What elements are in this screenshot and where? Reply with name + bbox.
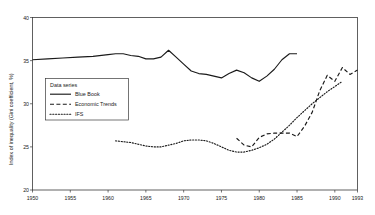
legend-label: IFS	[75, 111, 84, 117]
y-tick-label: 40	[23, 15, 29, 21]
x-tick-label: 1965	[140, 195, 152, 201]
series-line-ifs	[116, 81, 343, 152]
x-tick-label: 1960	[102, 195, 114, 201]
x-tick-label: 1975	[216, 195, 228, 201]
x-tick-label: 1980	[253, 195, 265, 201]
x-tick-label: 1970	[178, 195, 190, 201]
x-tick-label: 1985	[291, 195, 303, 201]
series-line-blue-book	[33, 50, 298, 81]
legend-label: Blue Book	[75, 91, 100, 97]
x-tick-label: 1993	[352, 195, 364, 201]
chart-figure: Index of inequality (Gini coefficient, %…	[0, 0, 375, 215]
x-tick-labels: 1950195519601965197019751980198519901993	[27, 195, 364, 201]
chart-legend: Data series Blue BookEconomic TrendsIFS	[46, 79, 129, 121]
y-tick-labels: 2025303540	[23, 15, 29, 194]
y-axis-title-label: Index of inequality (Gini coefficient, %…	[8, 73, 14, 165]
y-tick-label: 25	[23, 144, 29, 150]
y-tick-label: 30	[23, 101, 29, 107]
line-chart: Index of inequality (Gini coefficient, %…	[0, 0, 375, 215]
y-tick-label: 35	[23, 58, 29, 64]
x-tick-label: 1950	[27, 195, 39, 201]
legend-label: Economic Trends	[75, 101, 117, 107]
x-tick-label: 1990	[329, 195, 341, 201]
y-axis-title: Index of inequality (Gini coefficient, %…	[8, 73, 14, 165]
y-tick-label: 20	[23, 187, 29, 193]
legend-title: Data series	[50, 82, 78, 88]
x-tick-label: 1955	[65, 195, 77, 201]
